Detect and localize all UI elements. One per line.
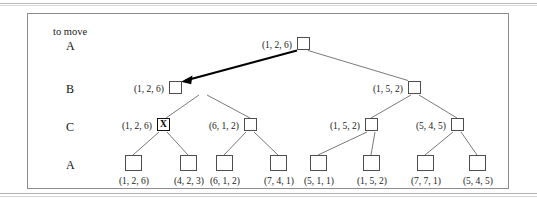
tree-node-c2-label: (6, 1, 2) xyxy=(187,122,239,132)
tree-leaf-5-label: (5, 1, 1) xyxy=(292,177,346,187)
tree-leaf-6-label: (1, 5, 2) xyxy=(345,177,399,187)
page-bottom-rule xyxy=(0,193,537,194)
tree-node-c2[interactable] xyxy=(244,118,257,131)
row-label-b: B xyxy=(66,83,74,95)
tree-node-root[interactable] xyxy=(297,37,310,50)
tree-node-c3[interactable] xyxy=(365,118,378,131)
tree-node-root-label: (1, 2, 6) xyxy=(240,41,292,51)
figure-page: to move A B C A (1, 2, 6) (1, 2, 6) (1, … xyxy=(0,0,537,201)
tree-node-c1-label: (1, 2, 6) xyxy=(100,122,152,132)
tree-leaf-7[interactable] xyxy=(417,155,434,171)
tree-leaf-5[interactable] xyxy=(310,155,327,171)
tree-leaf-7-label: (7, 7, 1) xyxy=(399,177,453,187)
tree-leaf-8[interactable] xyxy=(469,155,486,171)
tree-node-b-right-label: (1, 5, 2) xyxy=(351,85,403,95)
tree-leaf-8-label: (5, 4, 5) xyxy=(451,177,505,187)
tree-leaf-2[interactable] xyxy=(180,155,197,171)
tree-node-b-right[interactable] xyxy=(408,81,421,94)
tree-leaf-3-label: (6, 1, 2) xyxy=(198,177,252,187)
tree-node-b-left[interactable] xyxy=(169,81,182,94)
page-bottom-rule-secondary xyxy=(0,196,537,197)
tree-leaf-6[interactable] xyxy=(363,155,380,171)
tree-node-c3-label: (1, 5, 2) xyxy=(308,122,360,132)
row-label-a-bottom: A xyxy=(66,159,75,171)
row-label-c: C xyxy=(66,121,74,133)
x-mark-icon: X xyxy=(158,119,169,130)
page-top-rule xyxy=(0,3,537,4)
tree-leaf-4[interactable] xyxy=(270,155,287,171)
tree-node-c4-label: (5, 4, 5) xyxy=(394,122,446,132)
tree-node-b-left-label: (1, 2, 6) xyxy=(112,85,164,95)
page-top-rule-secondary xyxy=(0,5,537,6)
tree-node-c1-selected[interactable]: X xyxy=(157,118,170,131)
tree-leaf-1[interactable] xyxy=(125,155,142,171)
to-move-note: to move xyxy=(53,27,87,38)
tree-node-c4[interactable] xyxy=(451,118,464,131)
tree-leaf-1-label: (1, 2, 6) xyxy=(107,177,161,187)
tree-leaf-3[interactable] xyxy=(216,155,233,171)
row-label-a-top: A xyxy=(66,40,75,52)
